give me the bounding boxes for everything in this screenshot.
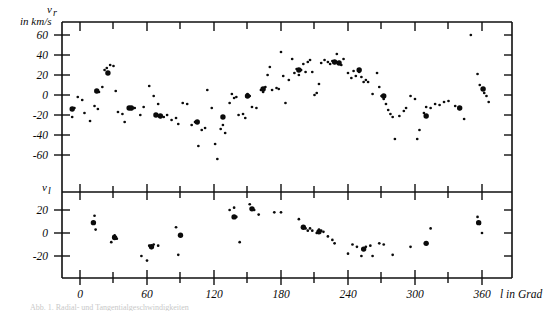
data-point [298,218,301,221]
data-point [251,106,254,109]
data-point [347,252,350,255]
data-point [402,110,405,113]
data-point [181,102,184,105]
data-point [371,93,374,96]
data-point [97,108,100,111]
data-point [157,103,160,106]
data-point [318,83,321,86]
data-point [385,103,388,106]
data-point [296,67,301,72]
data-point [248,203,251,206]
data-point [313,94,316,97]
data-point [356,67,361,72]
data-point [342,58,345,61]
upper-panel-y-ticks [54,35,512,155]
data-point [304,71,307,74]
data-point [347,72,350,75]
data-point [350,77,353,80]
data-point [381,93,386,98]
data-point [228,102,231,105]
data-point [146,259,149,262]
x-tick-label-0: 0 [77,288,83,300]
data-point [105,70,110,75]
data-point [447,100,450,103]
y-tick-label-lower-0: 20 [37,204,49,216]
y-axis-symbol-lower: v [42,181,47,193]
data-point [429,107,432,110]
data-point [438,104,441,107]
data-point [121,113,124,116]
data-point [287,79,290,82]
data-point [414,98,417,101]
data-point [293,72,296,75]
data-point [245,93,250,98]
x-tick-label-6: 360 [472,288,491,300]
data-point [197,145,200,148]
data-point [231,214,236,219]
data-point [257,213,260,216]
data-point [323,59,326,62]
y-tick-label-lower-2: -20 [33,250,49,262]
y-tick-label-upper-1: 40 [37,49,49,61]
data-point [365,79,368,82]
data-point [93,214,96,217]
data-point [469,34,472,37]
lower-panel-frame [62,192,512,278]
data-point [416,138,419,141]
data-point [418,129,421,132]
y-tick-label-upper-4: -20 [33,109,49,121]
y-axis-subscript-lower: l [48,185,51,196]
x-tick-label-4: 240 [339,288,357,300]
data-point [94,228,97,231]
data-point [237,114,240,117]
y-tick-label-upper-3: 0 [42,89,48,101]
data-point [129,105,134,110]
data-point [291,58,294,61]
data-point [320,62,323,65]
data-point [206,89,209,92]
data-point [409,95,412,98]
lower-panel-y-tick-labels: 20 0 -20 [33,204,49,262]
data-point [352,70,355,73]
data-point [214,143,217,146]
y-axis-subscript-upper: r [53,7,57,18]
data-point [235,96,238,99]
y-tick-label-upper-0: 60 [37,29,49,41]
data-point [242,113,245,116]
data-point [200,129,203,132]
data-point [483,92,486,95]
data-point [109,64,112,67]
x-tick-label-3: 180 [272,288,290,300]
figure-container: 60 40 20 0 -20 -40 -60 v r in km/s [0,0,552,312]
data-point [371,255,374,258]
data-point [93,105,96,108]
data-point [210,107,213,110]
data-point [170,119,173,122]
data-point [277,88,280,91]
data-point [309,59,312,62]
data-point [315,92,318,95]
data-point [301,225,306,230]
data-point [367,81,370,84]
data-point [112,235,117,240]
data-point [478,84,481,87]
data-point [112,65,115,68]
data-point [94,88,99,93]
data-point [71,116,74,119]
data-point [331,239,334,242]
data-point [249,206,254,211]
data-point [476,216,479,219]
data-point [423,241,428,246]
data-point [244,117,247,120]
data-point [157,244,160,247]
y-tick-label-upper-2: 20 [37,69,49,81]
y-tick-label-upper-6: -60 [33,149,49,161]
data-point [280,211,283,214]
data-point [140,255,143,258]
data-point [376,72,379,75]
data-point [280,51,283,54]
y-tick-label-lower-1: 0 [42,227,48,239]
data-point [69,106,74,111]
data-point [391,116,394,119]
y-axis-label-upper: v r in km/s [20,3,57,27]
